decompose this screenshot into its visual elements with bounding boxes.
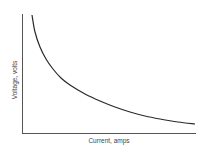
y-axis-label: Voltage, volts	[11, 60, 19, 99]
voltage-current-chart: Current, amps Voltage, volts	[0, 0, 205, 150]
x-axis-label: Current, amps	[88, 137, 130, 145]
voltage-current-curve	[32, 15, 195, 124]
